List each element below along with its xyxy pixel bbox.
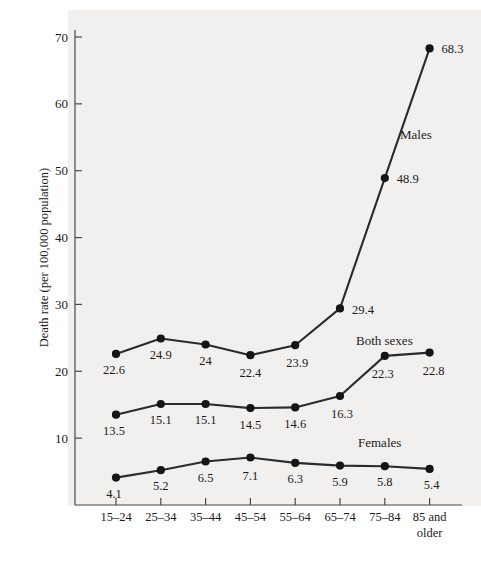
series-annotation-label: Females	[358, 435, 401, 450]
data-point-label: 5.4	[424, 478, 440, 492]
data-point-label: 23.9	[286, 356, 308, 370]
x-tick-label: 55–64	[280, 510, 312, 524]
x-tick-label: 65–74	[324, 510, 356, 524]
data-point-label: 22.4	[239, 366, 262, 380]
data-point-label: 22.8	[423, 364, 445, 378]
data-point	[336, 304, 344, 312]
data-point	[381, 462, 389, 470]
x-tick-label: 75–84	[369, 510, 401, 524]
data-point	[246, 404, 254, 412]
data-point	[291, 403, 299, 411]
x-tick-labels: 15–2425–3435–4445–5455–6465–7475–8485 an…	[100, 510, 447, 540]
data-point-label: 14.5	[239, 418, 261, 432]
y-tick-label: 70	[55, 30, 68, 45]
y-tick-label: 60	[55, 96, 68, 111]
data-point-label: 24	[199, 354, 212, 368]
line-chart: 10203040506070 15–2425–3435–4445–5455–64…	[0, 0, 481, 562]
data-point-label: 15.1	[195, 413, 217, 427]
x-tick-label: 15–24	[100, 510, 132, 524]
data-point-label: 29.4	[352, 303, 375, 317]
series-line	[116, 48, 430, 355]
data-point	[157, 466, 165, 474]
y-tick-labels: 10203040506070	[55, 30, 68, 446]
data-point-label: 5.9	[332, 475, 348, 489]
y-tick-label: 30	[55, 297, 68, 312]
y-tick-label: 50	[55, 163, 68, 178]
data-point-label: 7.1	[243, 469, 259, 483]
data-point	[157, 334, 165, 342]
data-point-label: 5.8	[377, 475, 393, 489]
x-axis: 15–2425–3435–4445–5455–6465–7475–8485 an…	[75, 498, 462, 540]
x-tick-label: 35–44	[190, 510, 222, 524]
data-point-label: 22.6	[103, 363, 125, 377]
data-point	[336, 392, 344, 400]
data-point-label: 13.5	[103, 424, 125, 438]
data-point	[202, 340, 210, 348]
data-point	[381, 352, 389, 360]
data-point-label: 14.6	[284, 417, 306, 431]
data-point	[336, 462, 344, 470]
y-tick-label: 40	[55, 230, 68, 245]
x-tick-marks	[116, 498, 430, 505]
data-point-label: 48.9	[397, 172, 419, 186]
data-point	[202, 457, 210, 465]
series-annotation-label: Males	[400, 127, 432, 142]
data-point	[426, 44, 434, 52]
x-tick-label-line2: older	[417, 526, 444, 540]
data-point	[112, 411, 120, 419]
y-axis: 10203040506070	[55, 30, 82, 506]
data-point-label: 6.3	[287, 472, 303, 486]
data-point	[112, 474, 120, 482]
data-point-label: 16.3	[331, 407, 353, 421]
data-point	[291, 341, 299, 349]
data-point-label: 6.5	[198, 471, 214, 485]
data-point	[426, 349, 434, 357]
x-tick-label: 85 and	[413, 510, 447, 524]
series-annotation-label: Both sexes	[356, 333, 413, 348]
data-point	[291, 459, 299, 467]
chart-figure: Death rate (per 100,000 population) 1020…	[0, 0, 481, 562]
series-annotations: MalesBoth sexesFemales	[356, 127, 432, 450]
data-point-labels: 22.624.92422.423.929.448.968.313.515.115…	[103, 42, 463, 500]
data-point-label: 4.1	[106, 487, 122, 501]
data-point-label: 68.3	[442, 42, 464, 56]
data-point	[426, 465, 434, 473]
data-point	[112, 350, 120, 358]
y-tick-marks	[75, 37, 82, 438]
data-point	[246, 351, 254, 359]
data-point	[157, 400, 165, 408]
y-tick-label: 20	[55, 364, 68, 379]
data-point-label: 15.1	[150, 413, 172, 427]
y-tick-label: 10	[55, 431, 68, 446]
data-point	[381, 174, 389, 182]
x-tick-label: 25–34	[145, 510, 177, 524]
data-point	[202, 400, 210, 408]
x-tick-label: 45–54	[235, 510, 267, 524]
data-point	[246, 453, 254, 461]
data-point-label: 24.9	[150, 348, 172, 362]
data-point-label: 5.2	[153, 479, 169, 493]
data-point-label: 22.3	[372, 367, 394, 381]
